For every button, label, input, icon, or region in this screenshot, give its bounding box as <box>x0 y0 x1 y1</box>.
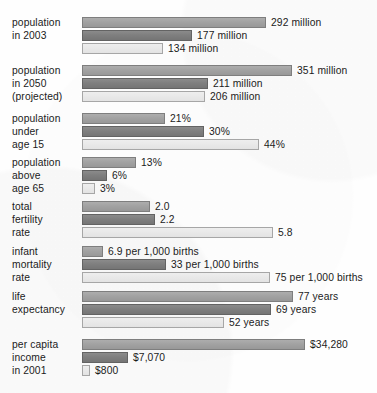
group-label-line: population <box>12 16 80 29</box>
group-label-per-capita-income-in-2001: per capitaincomein 2001 <box>12 338 80 377</box>
group-label-line: under <box>12 125 80 138</box>
group-label-infant-mortality-rate: infantmortalityrate <box>12 245 80 284</box>
group-label-line: per capita <box>12 338 80 351</box>
bar-value-label: $800 <box>95 364 118 377</box>
group-label-line: in 2050 <box>12 77 80 90</box>
bar-infant-mortality-rate-series-2 <box>82 259 166 270</box>
bar-population-above-age-65-series-1 <box>82 157 136 168</box>
bar-value-label: 134 million <box>168 42 218 55</box>
group-label-population-in-2050-projected: populationin 2050(projected) <box>12 64 80 103</box>
chart-group-population-in-2003: populationin 2003292 million177 million1… <box>0 16 377 55</box>
bar-value-label: 44% <box>264 138 285 151</box>
bar-total-fertility-rate-series-3 <box>82 227 273 238</box>
group-label-line: in 2003 <box>12 29 80 42</box>
group-label-line: total <box>12 200 80 213</box>
chart-group-life-expectancy: lifeexpectancy77 years69 years52 years <box>0 290 377 329</box>
bar-value-label: 30% <box>209 125 230 138</box>
bar-population-in-2050-projected-series-2 <box>82 78 208 89</box>
bar-value-label: 3% <box>100 182 115 195</box>
bar-value-label: 351 million <box>297 64 347 77</box>
population-statistics-bar-chart: populationin 2003292 million177 million1… <box>0 0 377 393</box>
bar-value-label: 52 years <box>229 316 269 329</box>
bar-infant-mortality-rate-series-3 <box>82 272 270 283</box>
bar-value-label: 206 million <box>210 90 260 103</box>
bar-value-label: 21% <box>170 112 191 125</box>
group-label-population-under-age-15: populationunderage 15 <box>12 112 80 151</box>
group-label-line: life <box>12 290 80 303</box>
bar-per-capita-income-in-2001-series-2 <box>82 352 128 363</box>
bar-value-label: 77 years <box>298 290 338 303</box>
bar-population-in-2050-projected-series-1 <box>82 65 292 76</box>
group-label-total-fertility-rate: totalfertilityrate <box>12 200 80 239</box>
bar-population-under-age-15-series-2 <box>82 126 204 137</box>
group-label-population-above-age-65: populationaboveage 65 <box>12 156 80 195</box>
bar-value-label: $7,070 <box>133 351 165 364</box>
bar-population-in-2003-series-2 <box>82 30 192 41</box>
bar-population-under-age-15-series-1 <box>82 113 165 124</box>
chart-group-per-capita-income-in-2001: per capitaincomein 2001$34,280$7,070$800 <box>0 338 377 377</box>
bar-population-above-age-65-series-2 <box>82 170 107 181</box>
group-label-population-in-2003: populationin 2003 <box>12 16 80 42</box>
bar-value-label: 2.0 <box>155 200 170 213</box>
bar-population-under-age-15-series-3 <box>82 139 259 150</box>
bar-total-fertility-rate-series-1 <box>82 201 150 212</box>
chart-group-population-under-age-15: populationunderage 1521%30%44% <box>0 112 377 151</box>
chart-group-population-above-age-65: populationaboveage 6513%6%3% <box>0 156 377 195</box>
bar-population-in-2003-series-1 <box>82 17 266 28</box>
group-label-line: income <box>12 351 80 364</box>
group-label-line: fertility <box>12 213 80 226</box>
group-label-line: above <box>12 169 80 182</box>
bar-life-expectancy-series-2 <box>82 304 271 315</box>
group-label-line: population <box>12 112 80 125</box>
bar-per-capita-income-in-2001-series-1 <box>82 339 305 350</box>
bar-population-in-2050-projected-series-3 <box>82 91 205 102</box>
group-label-life-expectancy: lifeexpectancy <box>12 290 80 316</box>
group-label-line: mortality <box>12 258 80 271</box>
paper-grain-texture <box>0 0 377 393</box>
bar-life-expectancy-series-1 <box>82 291 293 302</box>
group-label-line: age 65 <box>12 182 80 195</box>
chart-group-infant-mortality-rate: infantmortalityrate6.9 per 1,000 births3… <box>0 245 377 284</box>
group-label-line: expectancy <box>12 303 80 316</box>
bar-value-label: 5.8 <box>278 226 293 239</box>
bar-per-capita-income-in-2001-series-3 <box>82 365 90 376</box>
group-label-line: rate <box>12 226 80 239</box>
group-label-line: rate <box>12 271 80 284</box>
bar-total-fertility-rate-series-2 <box>82 214 155 225</box>
bar-infant-mortality-rate-series-1 <box>82 246 103 257</box>
bar-value-label: 2.2 <box>160 213 175 226</box>
bar-life-expectancy-series-3 <box>82 317 224 328</box>
group-label-line: population <box>12 156 80 169</box>
bar-value-label: $34,280 <box>310 338 348 351</box>
bar-value-label: 6% <box>112 169 127 182</box>
bar-value-label: 6.9 per 1,000 births <box>108 245 199 258</box>
chart-group-total-fertility-rate: totalfertilityrate2.02.25.8 <box>0 200 377 239</box>
group-label-line: (projected) <box>12 90 80 103</box>
group-label-line: population <box>12 64 80 77</box>
bar-value-label: 33 per 1,000 births <box>171 258 259 271</box>
group-label-line: in 2001 <box>12 364 80 377</box>
bar-value-label: 13% <box>141 156 162 169</box>
bar-population-in-2003-series-3 <box>82 43 163 54</box>
bar-value-label: 292 million <box>271 16 321 29</box>
bar-value-label: 211 million <box>213 77 263 90</box>
bar-value-label: 69 years <box>276 303 316 316</box>
bar-value-label: 75 per 1,000 births <box>275 271 363 284</box>
chart-group-population-in-2050-projected: populationin 2050(projected)351 million2… <box>0 64 377 103</box>
group-label-line: infant <box>12 245 80 258</box>
bar-population-above-age-65-series-3 <box>82 183 95 194</box>
group-label-line: age 15 <box>12 138 80 151</box>
bar-value-label: 177 million <box>197 29 247 42</box>
